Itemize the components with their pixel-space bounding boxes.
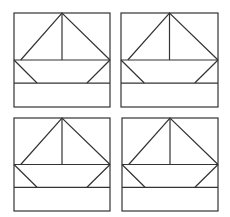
sail-triangle xyxy=(129,118,218,165)
boat-panel-top-left xyxy=(13,12,111,108)
hull-right-diagonal xyxy=(195,165,218,188)
sailboat-drawing xyxy=(13,117,111,212)
sail-triangle xyxy=(128,13,218,60)
sail-triangle xyxy=(21,13,110,60)
hull-right-diagonal xyxy=(195,60,218,83)
boat-panel-top-right xyxy=(120,12,219,108)
sailboat-drawing xyxy=(120,12,219,108)
hull-left-diagonal xyxy=(14,60,37,83)
hull-right-diagonal xyxy=(87,165,110,188)
hull-left-diagonal xyxy=(14,165,37,188)
sailboat-drawing xyxy=(121,117,219,212)
boat-panel-bottom-right xyxy=(121,117,219,212)
hull-right-diagonal xyxy=(87,60,110,83)
hull-left-diagonal xyxy=(121,60,144,83)
sail-triangle xyxy=(21,118,110,165)
boat-panel-bottom-left xyxy=(13,117,111,212)
hull-left-diagonal xyxy=(122,165,145,188)
sailboat-drawing xyxy=(13,12,111,108)
